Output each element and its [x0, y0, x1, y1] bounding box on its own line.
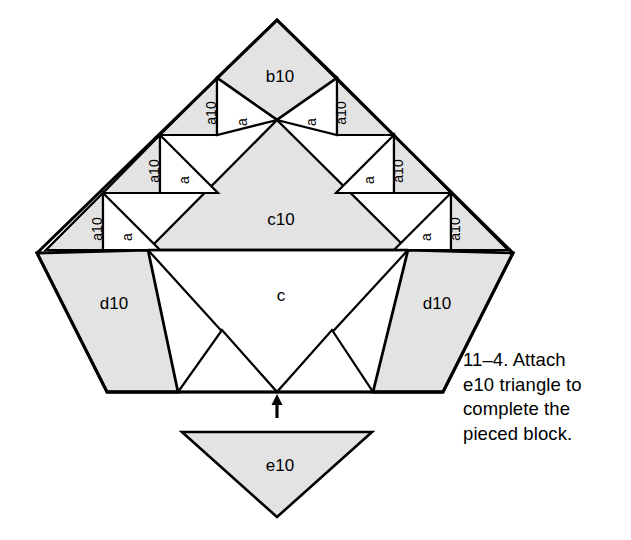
quilt-block-diagram: b10 c10 c d10 d10 e10 a10 a a10 a a10 a …: [0, 0, 631, 540]
figure-root: b10 c10 c d10 d10 e10 a10 a a10 a a10 a …: [0, 0, 631, 540]
label-d10-right: d10: [423, 294, 451, 313]
label-right-a10-1: a10: [333, 101, 349, 125]
label-left-a10-3: a10: [89, 217, 105, 241]
label-right-a-2: a: [361, 176, 377, 184]
piece-d10-left: [37, 250, 178, 392]
caption-line: pieced block.: [463, 422, 628, 447]
piece-c: [148, 250, 408, 392]
label-left-a-1: a: [234, 118, 250, 126]
label-left-a10-2: a10: [146, 159, 162, 183]
label-left-a10-1: a10: [203, 101, 219, 125]
label-left-a-3: a: [119, 233, 135, 241]
caption-line: e10 triangle to: [463, 373, 628, 398]
figure-caption: 11–4. Attach e10 triangle to complete th…: [463, 348, 628, 446]
caption-line: 11–4. Attach: [463, 348, 628, 373]
label-e10: e10: [266, 456, 294, 475]
label-b10: b10: [266, 67, 294, 86]
label-right-a10-2: a10: [390, 159, 406, 183]
label-d10-left: d10: [100, 294, 128, 313]
label-c10: c10: [267, 210, 294, 229]
label-right-a10-3: a10: [447, 217, 463, 241]
label-right-a-1: a: [303, 118, 319, 126]
attach-arrow-icon: [272, 394, 283, 418]
label-right-a-3: a: [418, 233, 434, 241]
label-left-a-2: a: [176, 176, 192, 184]
caption-line: complete the: [463, 397, 628, 422]
label-c: c: [277, 286, 286, 305]
